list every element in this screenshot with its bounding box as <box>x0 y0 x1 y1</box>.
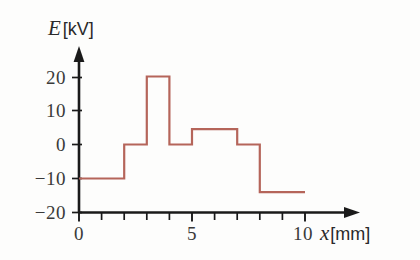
x-axis-unit: [mm] <box>330 224 370 244</box>
y-tick-label-10: 10 <box>20 100 66 122</box>
y-axis-arrow-icon <box>74 46 85 62</box>
y-axis-title: E[kV] <box>48 16 94 41</box>
y-axis-ticks <box>72 78 82 213</box>
y-axis-symbol: E <box>48 16 61 40</box>
x-tick-label-0: 0 <box>64 223 94 245</box>
y-tick-label-neg10: −10 <box>14 168 66 190</box>
x-tick-label-5: 5 <box>177 223 207 245</box>
y-tick-label-0: 0 <box>20 134 66 156</box>
chart-figure: 20 10 0 −10 −20 0 5 10 E[kV] x[mm] <box>0 0 420 260</box>
x-axis-arrow-icon <box>344 207 360 218</box>
x-axis-ticks <box>79 213 305 222</box>
data-curve-E <box>79 77 305 193</box>
y-tick-label-neg20: −20 <box>14 202 66 224</box>
y-axis-unit: [kV] <box>63 19 94 39</box>
y-tick-label-20: 20 <box>20 67 66 89</box>
x-tick-label-10: 10 <box>286 223 320 245</box>
x-axis-symbol: x <box>320 221 329 245</box>
x-axis-title: x[mm] <box>320 221 370 246</box>
